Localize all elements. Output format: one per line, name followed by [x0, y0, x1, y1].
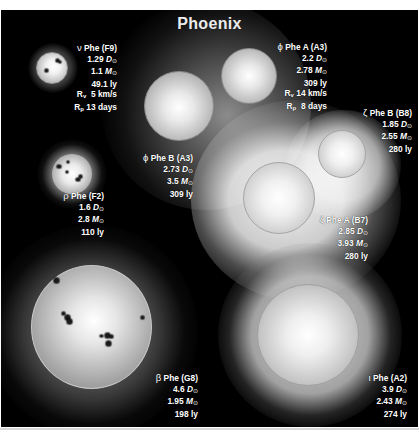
sunspot	[54, 278, 59, 283]
iota-phe-label: ι Phe (A2) 3.9 D⊙ 2.43 M⊙ 274 ly	[359, 373, 407, 419]
star-comparison-panel: Phoenix ν Phe (F9) 1.29 D⊙	[1, 10, 418, 427]
constellation-title: Phoenix	[1, 15, 418, 33]
sunspot	[66, 171, 68, 173]
sunspot	[100, 335, 103, 337]
rho-phe-label: ρ Phe (F2) 1.6 D⊙ 2.8 M⊙ 110 ly	[59, 191, 104, 237]
sunspot	[110, 335, 113, 338]
zeta-phe-b-label: ζ Phe B (B8) 1.85 D⊙ 2.55 M⊙ 280 ly	[358, 108, 412, 154]
phi-phe-a-star	[221, 48, 277, 104]
beta-phe-star	[31, 265, 152, 389]
sunspot	[106, 341, 111, 346]
iota-phe-star	[257, 284, 359, 386]
phi-phe-b-star	[144, 71, 214, 141]
beta-phe-label: β Phe (G8) 4.6 D⊙ 1.95 M⊙ 198 ly	[148, 373, 198, 419]
phi-phe-b-label: ϕ Phe B (A3) 2.73 D⊙ 3.5 M⊙ 309 ly	[139, 153, 193, 199]
bottom-divider	[0, 428, 419, 430]
sunspot	[79, 175, 82, 178]
sunspot	[59, 61, 61, 63]
sunspot	[57, 165, 61, 168]
sunspot	[67, 319, 72, 324]
nu-phe-label: ν Phe (F9) 1.29 D⊙ 1.1 M⊙ 49.1 ly Rv 5 k…	[63, 43, 117, 115]
zeta-phe-a-label: ζ Phe A (B7) 2.85 D⊙ 3.93 M⊙ 280 ly	[314, 215, 368, 261]
zeta-phe-a-star	[243, 162, 315, 234]
phi-phe-a-label: ϕ Phe A (A3) 2.2 D⊙ 2.78 M⊙ 309 ly Rv 14…	[273, 42, 327, 114]
sunspot	[45, 69, 48, 72]
sunspot	[62, 312, 65, 315]
rho-phe-star	[52, 154, 92, 194]
sunspot	[67, 161, 69, 163]
sunspot	[141, 316, 144, 319]
sunspot	[76, 178, 80, 181]
